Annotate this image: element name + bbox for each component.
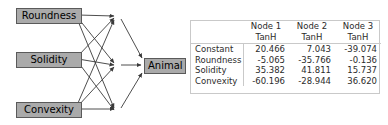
cell-convexity-node3: 36.620: [335, 76, 381, 87]
column-header-node-2: Node 2: [289, 21, 335, 32]
edge-convexity-node1: [78, 20, 114, 103]
cell-solidity-node1: 35.382: [243, 65, 289, 76]
column-activation-node-3: TanH: [335, 32, 381, 44]
edge-node3-animal: [121, 73, 142, 108]
input-node-solidity[interactable]: Solidity: [16, 52, 82, 68]
cell-convexity-node2: -28.944: [289, 76, 335, 87]
cell-constant-node3: -39.074: [335, 44, 381, 55]
row-label-solidity: Solidity: [191, 65, 243, 76]
edge-convexity-node2: [78, 67, 114, 106]
edge-node1-animal: [121, 19, 142, 58]
cell-constant-node2: 7.043: [289, 44, 335, 55]
input-node-convexity[interactable]: Convexity: [16, 102, 82, 118]
weights-table: Node 1 Node 2 Node 3 TanH TanH TanH Cons…: [191, 21, 381, 86]
table-corner-cell: [191, 21, 243, 32]
cell-constant-node1: 20.466: [243, 44, 289, 55]
edge-group-input-to-hidden: [78, 15, 114, 110]
row-label-convexity: Convexity: [191, 76, 243, 87]
edge-solidity-node1: [78, 18, 114, 56]
table-row: Constant 20.466 7.043 -39.074: [191, 44, 381, 55]
row-label-roundness: Roundness: [191, 55, 243, 66]
network-diagram: Roundness Solidity Convexity Animal: [0, 0, 190, 125]
input-node-roundness[interactable]: Roundness: [16, 8, 82, 24]
weights-table-head: Node 1 Node 2 Node 3 TanH TanH TanH: [191, 21, 381, 44]
table-row: Roundness -5.065 -35.766 -0.136: [191, 55, 381, 66]
edge-roundness-node1: [78, 15, 114, 16]
edge-group-hidden-to-output: [121, 19, 142, 108]
column-activation-node-2: TanH: [289, 32, 335, 44]
table-header-row-node: Node 1 Node 2 Node 3: [191, 21, 381, 32]
table-row: Solidity 35.382 41.811 15.737: [191, 65, 381, 76]
weights-table-panel: Node 1 Node 2 Node 3 TanH TanH TanH Cons…: [190, 20, 380, 94]
cell-convexity-node1: -60.196: [243, 76, 289, 87]
cell-roundness-node1: -5.065: [243, 55, 289, 66]
weights-table-body: Constant 20.466 7.043 -39.074 Roundness …: [191, 44, 381, 87]
column-activation-node-1: TanH: [243, 32, 289, 44]
cell-roundness-node3: -0.136: [335, 55, 381, 66]
edge-roundness-node2: [78, 18, 114, 63]
cell-solidity-node2: 41.811: [289, 65, 335, 76]
table-row: Convexity -60.196 -28.944 36.620: [191, 76, 381, 87]
table-header-row-activation: TanH TanH TanH: [191, 32, 381, 44]
cell-solidity-node3: 15.737: [335, 65, 381, 76]
cell-roundness-node2: -35.766: [289, 55, 335, 66]
output-node-animal[interactable]: Animal: [144, 58, 186, 74]
column-header-node-1: Node 1: [243, 21, 289, 32]
column-header-node-3: Node 3: [335, 21, 381, 32]
row-label-constant: Constant: [191, 44, 243, 55]
table-corner-cell-2: [191, 32, 243, 44]
